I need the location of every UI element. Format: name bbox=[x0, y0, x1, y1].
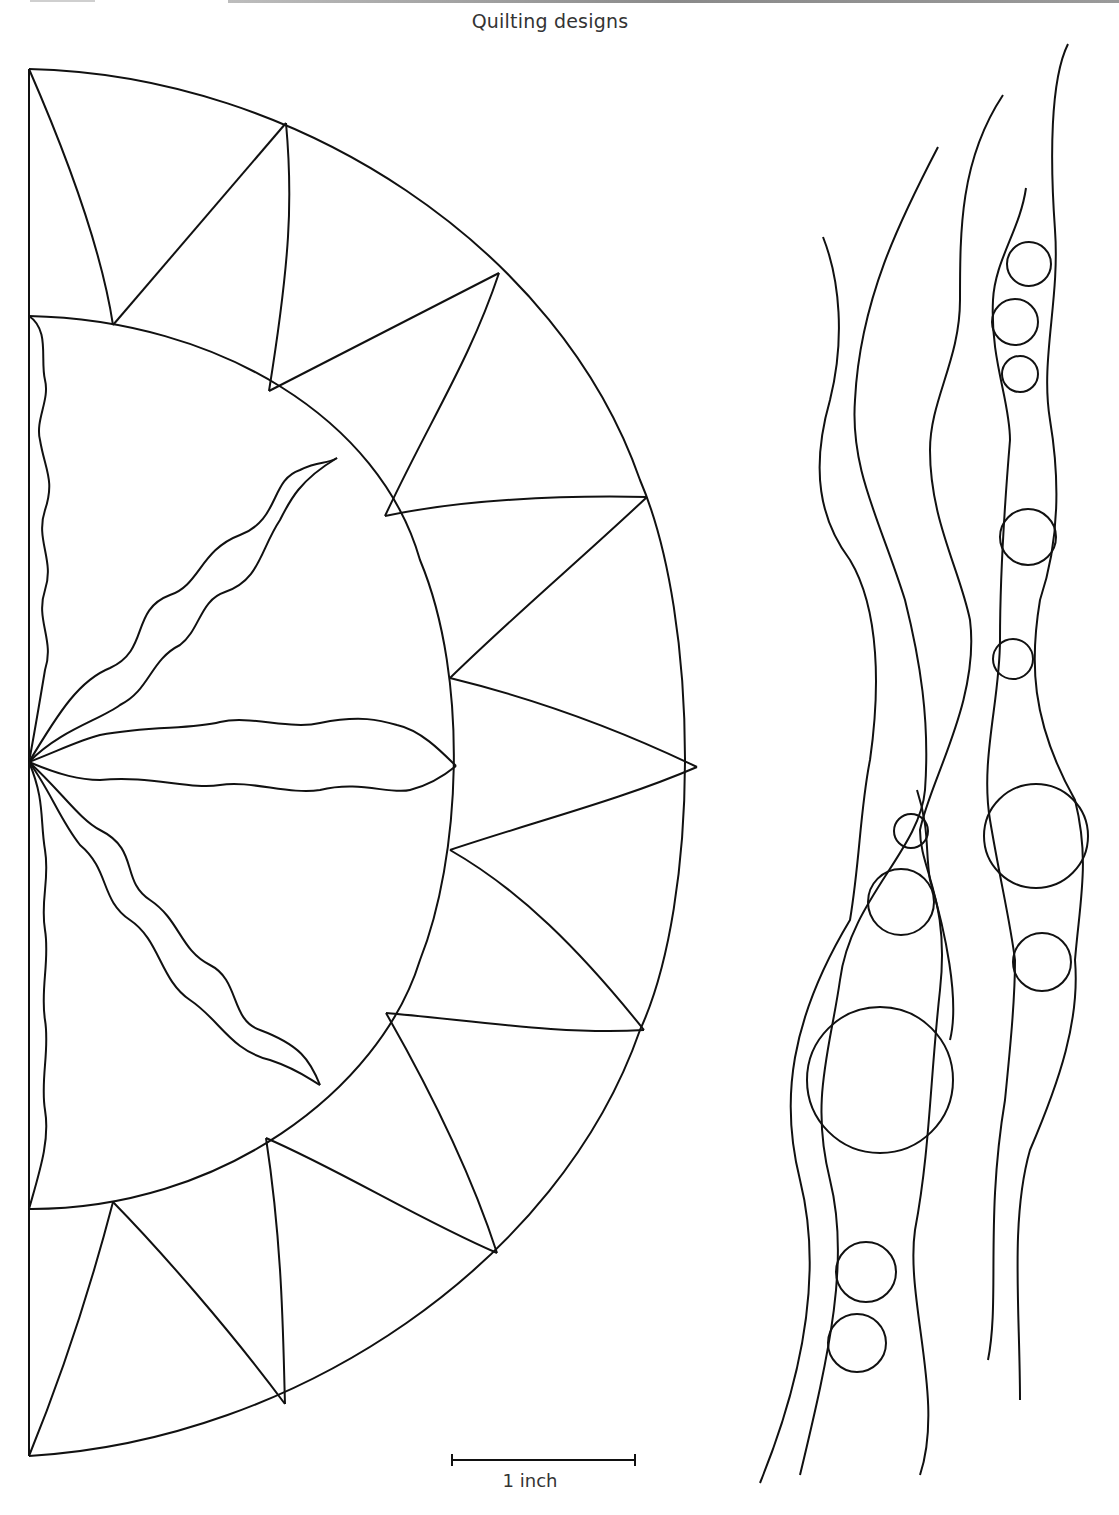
scale-bar bbox=[452, 1454, 635, 1466]
flow-line-6 bbox=[917, 790, 953, 1040]
outer-points bbox=[29, 69, 697, 1456]
bubble-circle bbox=[1007, 242, 1051, 286]
bubble-circle bbox=[836, 1242, 896, 1302]
outer-arc bbox=[29, 69, 685, 1456]
sunburst-design bbox=[29, 69, 697, 1456]
bubble-circle bbox=[992, 299, 1038, 345]
bubble-circle bbox=[1002, 356, 1038, 392]
bubble-circle bbox=[984, 784, 1088, 888]
bubble-circle bbox=[1013, 933, 1071, 991]
bubble-circle bbox=[1000, 509, 1056, 565]
bubble-circle bbox=[868, 869, 934, 935]
flowing-lines-design bbox=[760, 44, 1088, 1483]
flow-line-2 bbox=[800, 147, 938, 1475]
flow-line-1 bbox=[760, 237, 876, 1483]
quilting-designs-drawing bbox=[0, 0, 1119, 1515]
scale-bar-label: 1 inch bbox=[490, 1470, 570, 1491]
wavy-rays bbox=[29, 316, 456, 1209]
flow-line-4 bbox=[987, 188, 1026, 1360]
inner-arc bbox=[29, 316, 454, 1209]
flow-line-3 bbox=[913, 95, 1003, 1475]
flow-line-5 bbox=[1018, 44, 1083, 1400]
bubble-circle bbox=[828, 1314, 886, 1372]
bubble-circle bbox=[894, 814, 928, 848]
